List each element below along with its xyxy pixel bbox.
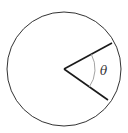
circle-angle-diagram: θ [0, 0, 128, 133]
angle-arc [89, 54, 95, 87]
angle-label-theta: θ [100, 64, 108, 78]
